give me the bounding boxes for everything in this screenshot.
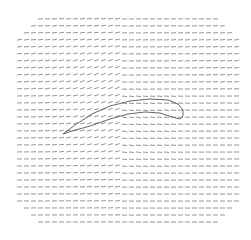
vector-arrow [101, 95, 106, 97]
vector-arrow [136, 103, 141, 104]
vector-arrow [115, 46, 120, 47]
vector-arrow [59, 137, 64, 138]
vector-arrow [115, 80, 120, 82]
vector-arrow [101, 179, 106, 180]
vector-arrow [45, 123, 50, 124]
vector-arrow [52, 137, 57, 138]
vector-arrow [213, 47, 218, 48]
vector-arrow [52, 102, 57, 103]
vector-arrow [66, 173, 71, 174]
vector-arrow [59, 53, 64, 54]
vector-arrow [94, 130, 99, 131]
vector-arrow [108, 32, 113, 33]
vector-arrow [24, 39, 29, 40]
vector-arrow [108, 94, 113, 96]
vector-arrow [31, 81, 36, 82]
vector-arrow [73, 172, 78, 173]
vector-arrow [80, 144, 85, 145]
vector-arrow [150, 124, 155, 125]
vector-arrow [52, 123, 57, 124]
vector-arrow [66, 137, 71, 138]
vector-arrow [206, 68, 211, 69]
vector-arrow [52, 159, 57, 160]
vector-arrow [52, 32, 57, 33]
vector-arrow [101, 46, 106, 47]
vector-arrow [199, 68, 204, 69]
vector-arrow [101, 25, 106, 26]
vector-arrow [52, 144, 57, 145]
vector-arrow [80, 130, 85, 131]
vector-arrow [108, 101, 113, 103]
vector-arrow [73, 95, 78, 96]
vector-arrow [45, 96, 50, 97]
vector-arrow [59, 123, 64, 124]
vector-arrow [52, 116, 57, 117]
vector-arrow [143, 96, 148, 97]
vector-arrow [38, 53, 43, 54]
vector-arrow [45, 131, 50, 132]
vector-arrow [94, 158, 99, 159]
vector-arrow [66, 67, 71, 68]
vector-arrow [38, 74, 43, 75]
vector-arrow [45, 26, 50, 27]
vector-arrow [143, 110, 148, 111]
vector-arrow [94, 116, 99, 118]
vector-arrow [115, 101, 120, 103]
vector-arrow [220, 61, 225, 62]
vector-arrow [108, 179, 113, 180]
vector-arrow [17, 88, 22, 89]
vector-arrow [59, 166, 64, 167]
vector-arrow [45, 67, 50, 68]
vector-arrow [108, 80, 113, 82]
vector-arrow [87, 25, 92, 26]
vector-arrow [52, 39, 57, 40]
vector-arrow [45, 88, 50, 89]
vector-arrow [66, 95, 71, 96]
vector-arrow [80, 172, 85, 173]
vector-arrow [115, 60, 120, 62]
vector-arrow [87, 109, 92, 110]
vector-arrow [115, 165, 120, 166]
vector-arrow [94, 109, 99, 111]
vector-arrow [87, 95, 92, 96]
vector-arrow [52, 60, 57, 61]
vector-arrow [66, 144, 71, 145]
vector-arrow [227, 40, 232, 41]
vector-arrow [94, 172, 99, 173]
vector-arrow [73, 60, 78, 61]
vector-arrow [108, 108, 113, 110]
vector-arrow [129, 96, 134, 97]
vector-arrow [108, 122, 113, 124]
vector-arrow [73, 25, 78, 26]
vector-arrow [66, 81, 71, 82]
vector-arrow [73, 137, 78, 138]
vector-arrow [66, 116, 71, 117]
vector-arrow [80, 46, 85, 47]
vector-arrow [31, 53, 36, 54]
vector-arrow [143, 145, 148, 146]
vector-arrow [66, 32, 71, 33]
vector-arrow [122, 138, 127, 139]
vector-arrow [129, 124, 134, 125]
vector-arrow [115, 144, 120, 145]
vector-arrow [59, 144, 64, 145]
vector-arrow [45, 138, 50, 139]
vector-arrow [45, 53, 50, 54]
vector-arrow [101, 115, 106, 117]
vector-arrow [108, 115, 113, 117]
vector-arrow [45, 145, 50, 146]
vector-arrow [108, 60, 113, 62]
vector-arrow [122, 124, 127, 125]
vector-arrow [143, 138, 148, 139]
vector-arrow [66, 88, 71, 89]
vector-arrow [80, 151, 85, 152]
vector-arrow [136, 131, 141, 132]
vector-arrow [87, 39, 92, 40]
vector-arrow [52, 74, 57, 75]
vector-arrow [101, 137, 106, 138]
vector-arrow [66, 60, 71, 61]
vector-arrow [66, 74, 71, 75]
vector-arrow [73, 109, 78, 110]
vector-arrow [129, 117, 134, 118]
vector-arrow [87, 158, 92, 159]
